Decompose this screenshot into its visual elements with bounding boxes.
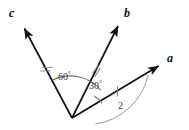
degree-symbol-60: ° [68,70,71,78]
vector-diagram: c b a 60° 30° 2 [0,0,189,130]
vector-diagram-canvas [0,0,189,130]
degree-symbol-30: ° [99,79,102,87]
vector-label-a: a [167,52,173,64]
angle-value-30: 30 [89,80,99,91]
vector-a-tick-marks [113,86,122,96]
vector-label-b: b [124,7,130,19]
magnitude-label-2: 2 [118,101,123,111]
angle-label-60: 60° [58,71,71,82]
angle-value-60: 60 [58,71,68,82]
angle-label-30: 30° [89,80,102,91]
vector-label-c: c [9,7,14,19]
